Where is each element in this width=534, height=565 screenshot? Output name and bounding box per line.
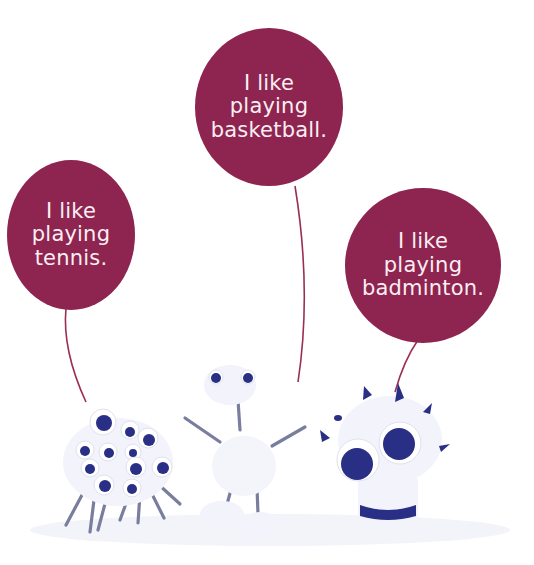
bubble-tennis-line-1: I like — [46, 200, 96, 224]
bubble-tennis-line-2: playing — [32, 223, 110, 247]
bubble-badminton: I like playing badminton. — [345, 188, 501, 343]
bubble-badminton-line-3: badminton. — [362, 277, 484, 301]
bubble-basketball-line-2: playing — [230, 95, 308, 119]
bubble-basketball-line-1: I like — [244, 72, 294, 96]
bubble-tennis: I like playing tennis. — [7, 160, 135, 310]
illustration-scene: I like playing tennis. I like playing ba… — [0, 0, 534, 565]
stick-figure-monster — [185, 365, 305, 538]
string-tennis — [65, 308, 86, 402]
spiky-monster — [320, 383, 450, 525]
string-basketball — [295, 186, 304, 382]
bubble-basketball: I like playing basketball. — [195, 28, 343, 186]
bubble-tennis-line-3: tennis. — [35, 247, 108, 271]
bubble-badminton-line-2: playing — [384, 254, 462, 278]
bubble-badminton-line-1: I like — [398, 230, 448, 254]
many-eyed-monster — [63, 409, 180, 532]
bubble-basketball-line-3: basketball. — [211, 119, 327, 143]
